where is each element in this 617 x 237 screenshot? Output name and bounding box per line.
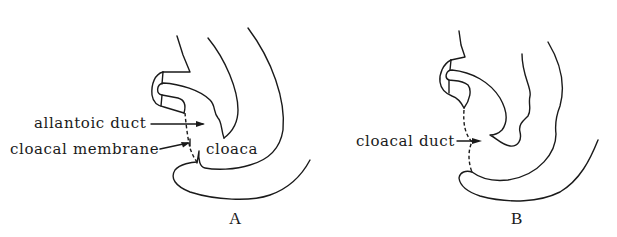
- panel-a-hindgut-wall: [158, 83, 224, 138]
- panel-b-tail-fold: [451, 31, 465, 60]
- label-cloacal-membrane: cloacal membrane: [10, 142, 159, 157]
- panel-a-body-wall: [173, 160, 310, 199]
- panel-b-arrowhead-icon: [472, 138, 482, 144]
- panel-a-cloacal-membrane-line: [185, 113, 197, 162]
- panel-a-outer-loop: [152, 72, 184, 113]
- panel-a-allantoic-arrowhead-icon: [196, 121, 205, 127]
- diagram-canvas: allantoic duct cloacal membrane cloaca A…: [0, 0, 617, 237]
- panel-b-drawing: [440, 31, 598, 201]
- label-cloacal-duct: cloacal duct: [356, 134, 455, 149]
- label-cloaca: cloaca: [206, 142, 258, 157]
- panel-b-outer-loop: [440, 60, 464, 108]
- panel-b-body-wall: [459, 140, 598, 201]
- panel-a-drawing: [151, 28, 310, 199]
- panel-b-cloaca-wall: [472, 42, 562, 181]
- panel-b-divider-top: [450, 60, 451, 70]
- panel-a-divider-top: [162, 72, 163, 84]
- panel-label-a: A: [229, 210, 241, 227]
- label-allantoic-duct: allantoic duct: [34, 116, 146, 131]
- panel-a-inner-curve: [208, 38, 238, 138]
- panel-a-divider-bottom: [161, 95, 162, 106]
- panel-label-b: B: [511, 210, 522, 227]
- panel-a-tail-fold: [163, 36, 190, 72]
